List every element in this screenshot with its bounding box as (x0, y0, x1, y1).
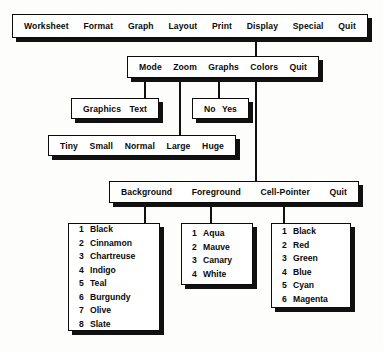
option-label: Black (90, 223, 150, 237)
menu-item-format[interactable]: Format (81, 21, 115, 31)
menu-item-print[interactable]: Print (210, 21, 234, 31)
option-label: Olive (90, 304, 150, 318)
colors-menu-item-cell-pointer[interactable]: Cell-Pointer (258, 187, 311, 197)
display-menu-item-graphs[interactable]: Graphs (206, 62, 241, 72)
option-label: Chartreuse (90, 250, 150, 264)
display-menu-item-zoom[interactable]: Zoom (171, 62, 199, 72)
mode-menu-item-graphics[interactable]: Graphics (81, 104, 123, 114)
zoom-menu-item-small[interactable]: Small (88, 141, 115, 151)
colors-menu-item-foreground[interactable]: Foreground (190, 187, 243, 197)
option-number: 6 (282, 293, 293, 307)
option-number: 7 (79, 304, 90, 318)
option-number: 6 (79, 291, 90, 305)
display-menu-item-mode[interactable]: Mode (137, 62, 164, 72)
option-number: 2 (79, 237, 90, 251)
option-number: 1 (192, 227, 203, 241)
option-number: 2 (282, 239, 293, 253)
option-label: Magenta (293, 293, 341, 307)
zoom-menu-item-huge[interactable]: Huge (200, 141, 226, 151)
option-label: Blue (293, 266, 341, 280)
option-label: Slate (90, 318, 150, 332)
option-label: Red (293, 239, 341, 253)
option-number: 4 (192, 268, 203, 282)
foreground-color-list[interactable]: 1 Aqua 2 Mauve 3 Canary 4 White (181, 223, 253, 285)
list-item[interactable]: 1 Black (79, 223, 150, 237)
zoom-submenu[interactable]: Tiny Small Normal Large Huge (48, 135, 236, 156)
graphs-menu-item-no[interactable]: No (202, 104, 218, 114)
option-number: 5 (79, 277, 90, 291)
option-number: 4 (79, 264, 90, 278)
option-number: 2 (192, 241, 203, 255)
menu-tree-diagram: Worksheet Format Graph Layout Print Disp… (0, 0, 383, 351)
option-number: 4 (282, 266, 293, 280)
list-item[interactable]: 6 Magenta (282, 293, 341, 307)
option-label: Cinnamon (90, 237, 150, 251)
option-label: Cyan (293, 279, 341, 293)
colors-menu-item-background[interactable]: Background (119, 187, 174, 197)
list-item[interactable]: 7 Olive (79, 304, 150, 318)
option-number: 1 (282, 225, 293, 239)
option-number: 8 (79, 318, 90, 332)
menu-item-display[interactable]: Display (245, 21, 280, 31)
connector-colors-to-colors-menu (255, 78, 257, 181)
list-item[interactable]: 2 Mauve (192, 241, 243, 255)
option-number: 3 (79, 250, 90, 264)
colors-submenu[interactable]: Background Foreground Cell-Pointer Quit (109, 181, 359, 203)
list-item[interactable]: 1 Aqua (192, 227, 243, 241)
list-item[interactable]: 3 Green (282, 252, 341, 266)
background-color-list[interactable]: 1 Black 2 Cinnamon 3 Chartreuse 4 Indigo… (68, 223, 160, 331)
connector-foreground-to-color-list (210, 203, 212, 223)
connector-display-to-display-menu (255, 38, 257, 56)
list-item[interactable]: 3 Chartreuse (79, 250, 150, 264)
list-item[interactable]: 4 White (192, 268, 243, 282)
display-submenu[interactable]: Mode Zoom Graphs Colors Quit (127, 56, 319, 78)
option-label: Burgundy (90, 291, 150, 305)
connector-background-to-color-list (144, 203, 146, 223)
list-item[interactable]: 4 Blue (282, 266, 341, 280)
list-item[interactable]: 5 Teal (79, 277, 150, 291)
list-item[interactable]: 2 Cinnamon (79, 237, 150, 251)
worksheet-menu-bar[interactable]: Worksheet Format Graph Layout Print Disp… (12, 14, 368, 38)
menu-item-worksheet[interactable]: Worksheet (22, 21, 71, 31)
connector-graphs-to-graphs-menu (218, 78, 220, 98)
option-label: Black (293, 225, 341, 239)
cell-pointer-color-list[interactable]: 1 Black 2 Red 3 Green 4 Blue 5 Cyan 6 Ma… (271, 223, 351, 308)
list-item[interactable]: 2 Red (282, 239, 341, 253)
option-label: Indigo (90, 264, 150, 278)
option-number: 3 (192, 254, 203, 268)
menu-item-graph[interactable]: Graph (126, 21, 156, 31)
display-menu-item-colors[interactable]: Colors (248, 62, 280, 72)
menu-item-quit[interactable]: Quit (336, 21, 358, 31)
list-item[interactable]: 6 Burgundy (79, 291, 150, 305)
connector-cellpointer-to-color-list (283, 203, 285, 223)
option-label: White (203, 268, 243, 282)
list-item[interactable]: 4 Indigo (79, 264, 150, 278)
connector-mode-to-mode-menu (144, 78, 146, 98)
zoom-menu-item-normal[interactable]: Normal (123, 141, 157, 151)
option-label: Teal (90, 277, 150, 291)
option-label: Green (293, 252, 341, 266)
menu-item-special[interactable]: Special (291, 21, 326, 31)
menu-item-layout[interactable]: Layout (166, 21, 199, 31)
list-item[interactable]: 5 Cyan (282, 279, 341, 293)
list-item[interactable]: 8 Slate (79, 318, 150, 332)
graphs-submenu[interactable]: No Yes (192, 98, 249, 119)
option-label: Mauve (203, 241, 243, 255)
graphs-menu-item-yes[interactable]: Yes (220, 104, 239, 114)
list-item[interactable]: 3 Canary (192, 254, 243, 268)
zoom-menu-item-large[interactable]: Large (165, 141, 193, 151)
option-number: 3 (282, 252, 293, 266)
mode-submenu[interactable]: Graphics Text (71, 98, 159, 119)
zoom-menu-item-tiny[interactable]: Tiny (58, 141, 80, 151)
mode-menu-item-text[interactable]: Text (128, 104, 149, 114)
option-number: 1 (79, 223, 90, 237)
colors-menu-item-quit[interactable]: Quit (327, 187, 349, 197)
connector-zoom-to-zoom-menu (179, 78, 181, 135)
option-number: 5 (282, 279, 293, 293)
option-label: Canary (203, 254, 243, 268)
list-item[interactable]: 1 Black (282, 225, 341, 239)
display-menu-item-quit[interactable]: Quit (287, 62, 309, 72)
option-label: Aqua (203, 227, 243, 241)
